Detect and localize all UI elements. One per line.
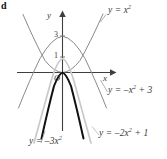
parabola-figure: d y x 3 1 O y = x2 y = –x2 + 3 y = –2x2 … <box>0 0 167 159</box>
leader-line-y-equals-neg-2x-squared-plus-1 <box>92 127 99 136</box>
equation-label-y-equals-neg-3x-squared: y = –3x2 <box>29 137 62 147</box>
equation-text-tail: + 1 <box>132 128 148 138</box>
equation-text-base: y = –x <box>108 85 133 95</box>
equation-exponent: 2 <box>128 4 131 10</box>
y-tick-label-1: 1 <box>54 52 58 60</box>
equation-text-base: y = x <box>108 5 128 15</box>
part-letter-marker: d <box>1 1 7 11</box>
equation-text-tail: + 3 <box>136 85 152 95</box>
origin-label: O <box>54 74 60 83</box>
x-axis-label: x <box>103 74 107 83</box>
equation-label-y-equals-neg-x-squared-plus-3: y = –x2 + 3 <box>108 86 152 96</box>
y-tick-label-3: 3 <box>54 31 58 39</box>
y-axis-label: y <box>47 11 51 20</box>
equation-text-base: y = –2x <box>99 128 129 138</box>
equation-text-base: y = –3x <box>29 136 59 146</box>
equation-label-y-equals-x-squared: y = x2 <box>108 6 131 16</box>
equation-exponent: 2 <box>59 135 62 141</box>
equation-label-y-equals-neg-2x-squared-plus-1: y = –2x2 + 1 <box>99 129 148 139</box>
